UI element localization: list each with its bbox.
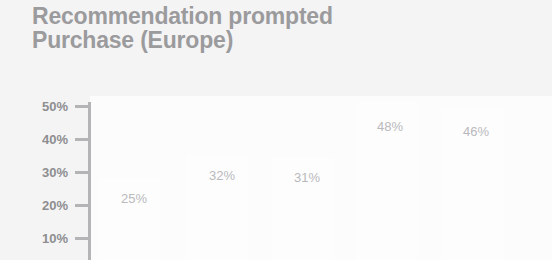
y-axis-label-10: 10% — [8, 232, 68, 245]
y-axis-tick-50 — [75, 105, 89, 108]
data-label-1: 25% — [121, 192, 147, 205]
y-axis-tick-30 — [75, 171, 89, 174]
data-label-5: 46% — [463, 125, 489, 138]
y-axis-tick-20 — [75, 204, 89, 207]
data-label-3: 31% — [294, 171, 320, 184]
chart-title: Recommendation prompted Purchase (Europe… — [32, 4, 532, 52]
data-label-2: 32% — [209, 169, 235, 182]
plot-area — [90, 96, 552, 260]
y-axis-label-30: 30% — [8, 166, 68, 179]
data-label-4: 48% — [377, 120, 403, 133]
y-axis-label-50: 50% — [8, 100, 68, 113]
y-axis-label-40: 40% — [8, 133, 68, 146]
y-axis-tick-40 — [75, 138, 89, 141]
y-axis-label-20: 20% — [8, 199, 68, 212]
y-axis-tick-10 — [75, 237, 89, 240]
chart-container: Recommendation prompted Purchase (Europe… — [0, 0, 552, 260]
